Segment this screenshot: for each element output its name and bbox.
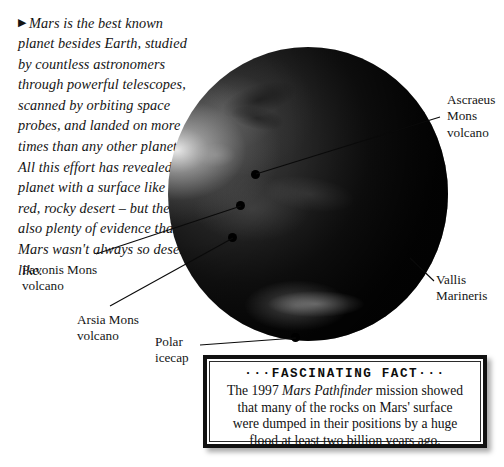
fascinating-fact-box: ···FASCINATING FACT··· The 1997 Mars Pat… — [203, 355, 487, 448]
surface-feature-dark-streak-2 — [228, 102, 285, 135]
callout-pavonis-mons-volcano: Pavonis Mons volcano — [22, 262, 132, 295]
marker-dot-pavonis — [236, 201, 245, 210]
fascinating-fact-heading: ···FASCINATING FACT··· — [210, 367, 480, 381]
fascinating-fact-inner: ···FASCINATING FACT··· The 1997 Mars Pat… — [209, 361, 481, 442]
fact-line1-post: mission showed — [372, 383, 463, 398]
marker-dot-arsia — [228, 233, 237, 242]
surface-feature-dark-streak-1 — [217, 74, 300, 127]
callout-ascraeus-mons-volcano: Ascraeus Mons volcano — [447, 92, 504, 141]
mars-planet-image — [168, 47, 448, 341]
mars-infographic-page: ▶Mars is the best known planet besides E… — [0, 0, 504, 467]
fact-line1-italic: Mars Pathfinder — [282, 383, 372, 398]
callout-arsia-line1: Arsia Mons — [77, 312, 177, 328]
callout-pavonis-line2: volcano — [22, 278, 132, 294]
fact-line2: that many of the rocks on Mars' surface — [216, 400, 474, 417]
callout-ascraeus-line1: Ascraeus — [447, 92, 504, 108]
fact-line3: were dumped in their positions by a huge — [216, 416, 474, 433]
fact-line4: flood at least two billion years ago. — [216, 433, 474, 450]
polar-icecap-feature — [268, 291, 364, 317]
callout-vallis-line2: Marineris — [436, 288, 504, 304]
marker-dot-ascraeus — [251, 170, 260, 179]
fact-line1-pre: The 1997 — [227, 383, 282, 398]
triangle-bullet-icon: ▶ — [18, 16, 29, 28]
callout-polar-line1: Polar — [155, 334, 215, 350]
callout-pavonis-line1: Pavonis Mons — [22, 262, 132, 278]
fascinating-fact-body: The 1997 Mars Pathfinder mission showed … — [210, 383, 480, 449]
surface-feature-light-patch-1 — [196, 143, 236, 167]
surface-feature-light-patch-2 — [262, 171, 356, 217]
mars-terminator-shading — [168, 47, 448, 341]
mars-sphere — [168, 47, 448, 341]
callout-vallis-marineris: Vallis Marineris — [436, 272, 504, 305]
callout-ascraeus-line3: volcano — [447, 125, 504, 141]
callout-ascraeus-line2: Mons — [447, 108, 504, 124]
callout-vallis-line1: Vallis — [436, 272, 504, 288]
marker-dot-polar-icecap — [291, 333, 300, 342]
